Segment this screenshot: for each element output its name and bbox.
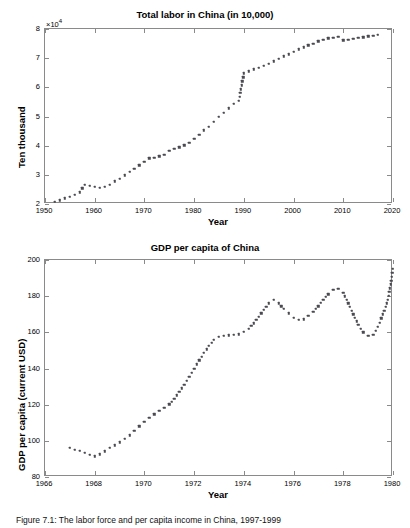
plot-area-total-labor: [44, 28, 392, 203]
data-point: [240, 88, 242, 90]
data-point: [372, 334, 374, 336]
data-point: [380, 317, 382, 319]
x-tick-label-gdp-per-capita: 1978: [334, 479, 351, 488]
data-point: [118, 177, 120, 179]
x-tickmark-total-labor: [244, 198, 245, 202]
y-tickmark-right-total-labor: [387, 58, 391, 59]
x-tickmark-gdp-per-capita: [294, 471, 295, 475]
data-point: [253, 68, 255, 70]
y-tickmark-total-labor: [45, 117, 49, 118]
data-point: [352, 313, 354, 315]
data-point: [317, 40, 319, 42]
data-point: [143, 161, 145, 163]
x-tickmark-total-labor: [95, 198, 96, 202]
data-point: [178, 391, 180, 393]
x-tick-label-gdp-per-capita: 1970: [135, 479, 152, 488]
data-point: [342, 39, 344, 41]
data-point: [260, 312, 262, 314]
data-point: [168, 150, 170, 152]
data-point: [103, 450, 105, 452]
y-tick-label-total-labor: 8: [20, 24, 40, 33]
x-tickmark-gdp-per-capita: [144, 471, 145, 475]
data-point: [168, 403, 170, 405]
data-point: [113, 180, 115, 182]
data-point: [243, 331, 245, 333]
data-point: [223, 335, 225, 337]
data-point: [198, 359, 200, 361]
data-point: [171, 400, 173, 402]
data-point: [332, 36, 334, 38]
x-tickmark-total-labor: [194, 198, 195, 202]
data-point: [208, 345, 210, 347]
data-point: [89, 185, 91, 187]
y-tickmark-right-total-labor: [387, 175, 391, 176]
x-tickmark-total-labor: [393, 198, 394, 202]
data-point: [352, 37, 354, 39]
x-tick-label-total-labor: 2010: [334, 206, 351, 215]
x-tickmark-total-labor: [144, 198, 145, 202]
x-axis-label-gdp-per-capita: Year: [44, 489, 392, 500]
data-point: [238, 96, 240, 98]
data-point: [242, 76, 244, 78]
data-point: [359, 328, 361, 330]
x-tick-label-total-labor: 1960: [85, 206, 102, 215]
data-point: [392, 268, 394, 270]
data-point: [233, 103, 235, 105]
y-tick-label-gdp-per-capita: 180: [20, 291, 40, 300]
data-point: [349, 306, 351, 308]
data-point: [345, 299, 347, 301]
x-tickmark-top-gdp-per-capita: [194, 260, 195, 264]
data-point: [84, 184, 86, 186]
data-point: [233, 334, 235, 336]
data-point: [243, 72, 245, 74]
figure-caption: Figure 7.1: The labor force and per capi…: [16, 515, 394, 528]
x-tickmark-gdp-per-capita: [194, 471, 195, 475]
data-point: [143, 421, 145, 423]
x-tickmark-top-gdp-per-capita: [343, 260, 344, 264]
y-tickmark-gdp-per-capita: [45, 369, 49, 370]
data-point: [320, 302, 322, 304]
y-tickmark-gdp-per-capita: [45, 441, 49, 442]
data-point: [322, 299, 324, 301]
data-point: [203, 129, 205, 131]
y-axis-exponent-label: ×104: [46, 18, 62, 29]
x-tick-label-total-labor: 1980: [185, 206, 202, 215]
data-point: [108, 183, 110, 185]
x-tickmark-gdp-per-capita: [393, 471, 394, 475]
x-tickmark-gdp-per-capita: [45, 471, 46, 475]
data-point: [367, 35, 369, 37]
data-point: [138, 425, 140, 427]
x-tick-label-gdp-per-capita: 1972: [185, 479, 202, 488]
x-tick-label-gdp-per-capita: 1966: [36, 479, 53, 488]
data-point: [337, 287, 339, 289]
data-point: [148, 157, 150, 159]
data-point: [205, 348, 207, 350]
data-point: [379, 321, 381, 323]
data-point: [218, 116, 220, 118]
x-tickmark-total-labor: [45, 198, 46, 202]
plot-area-gdp-per-capita: [44, 259, 392, 476]
data-point: [133, 430, 135, 432]
y-tickmark-total-labor: [45, 204, 49, 205]
data-point: [327, 37, 329, 39]
data-point: [272, 60, 274, 62]
data-point: [176, 394, 178, 396]
figure-root: Total labor in China (in 10,000) ×104 Te…: [0, 0, 410, 528]
y-tickmark-right-total-labor: [387, 204, 391, 205]
data-point: [74, 193, 76, 195]
data-point: [173, 148, 175, 150]
y-tick-label-total-labor: 5: [20, 111, 40, 120]
data-point: [54, 201, 56, 203]
data-point: [383, 309, 385, 311]
data-point: [347, 38, 349, 40]
y-tickmark-gdp-per-capita: [45, 296, 49, 297]
data-point: [178, 146, 180, 148]
y-tickmark-right-gdp-per-capita: [387, 369, 391, 370]
data-point: [315, 308, 317, 310]
data-point: [367, 334, 369, 336]
data-point: [377, 34, 379, 36]
data-point: [193, 367, 195, 369]
data-point: [193, 138, 195, 140]
y-tickmark-total-labor: [45, 175, 49, 176]
x-tickmark-top-total-labor: [45, 29, 46, 33]
